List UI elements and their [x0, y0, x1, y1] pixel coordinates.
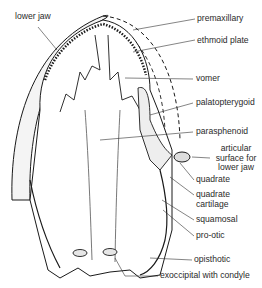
label-quadrate: quadrate	[196, 175, 230, 185]
label-ethmoid-plate: ethmoid plate	[197, 36, 249, 46]
condyle-right	[103, 249, 117, 256]
label-vomer: vomer	[196, 74, 220, 84]
label-articular-line-3: lower jaw	[212, 163, 260, 173]
label-pro-otic: pro-otic	[196, 231, 225, 241]
articular-surface	[174, 152, 190, 162]
label-articular-surface: articular surface for lower jaw	[212, 144, 260, 173]
condyle-left	[73, 250, 87, 257]
label-exoccipital: exoccipital with condyle	[160, 271, 250, 281]
label-parasphenoid: parasphenoid	[196, 127, 248, 137]
label-lower-jaw: lower jaw	[15, 12, 51, 22]
label-quadrate-cartilage: quadrate cartilage	[196, 190, 230, 209]
label-premaxillary: premaxillary	[197, 14, 243, 24]
label-squamosal: squamosal	[196, 215, 238, 225]
label-opisthotic: opisthotic	[194, 255, 230, 265]
label-palatopterygoid: palatopterygoid	[196, 98, 255, 108]
label-quadrate-cartilage-line-2: cartilage	[196, 200, 230, 210]
